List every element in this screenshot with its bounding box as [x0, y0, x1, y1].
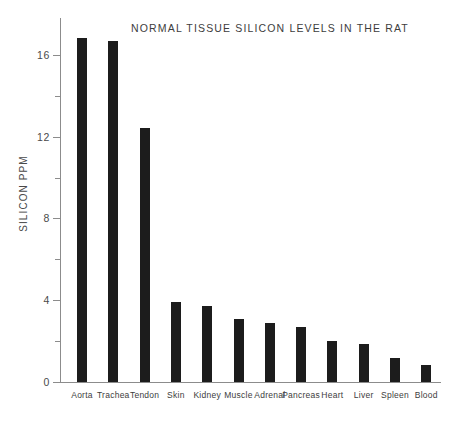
y-tick-minor [55, 341, 60, 342]
y-tick-label: 12 [37, 131, 50, 143]
bar [202, 306, 212, 382]
y-axis-label: SILICON PPM [18, 149, 29, 239]
bar [234, 319, 244, 382]
y-tick-label: 16 [37, 49, 50, 61]
x-axis-line [60, 382, 441, 383]
category-label: Heart [321, 390, 343, 400]
y-tick-major: 16 [53, 55, 60, 56]
category-label: Adrenal [254, 390, 285, 400]
category-label: Aorta [71, 390, 93, 400]
bar [359, 344, 369, 382]
category-label: Skin [167, 390, 185, 400]
chart-figure: NORMAL TISSUE SILICON LEVELS IN THE RAT … [0, 0, 451, 421]
bar [421, 365, 431, 382]
y-axis-line [60, 18, 61, 383]
category-label: Kidney [193, 390, 221, 400]
plot-area: 0481216 AortaTracheaTendonSkinKidneyMusc… [60, 18, 441, 383]
category-label: Spleen [381, 390, 409, 400]
category-label: Tendon [130, 390, 159, 400]
y-tick-major: 4 [53, 300, 60, 301]
bar [296, 327, 306, 382]
y-tick-label: 0 [44, 376, 50, 388]
category-label: Muscle [224, 390, 252, 400]
y-tick-major: 0 [53, 382, 60, 383]
y-tick-label: 4 [44, 294, 50, 306]
y-tick-minor [55, 178, 60, 179]
y-tick-label: 8 [44, 212, 50, 224]
y-tick-minor [55, 96, 60, 97]
bar [108, 41, 118, 383]
category-label: Liver [354, 390, 374, 400]
bar [171, 302, 181, 382]
y-tick-major: 8 [53, 218, 60, 219]
bar [140, 128, 150, 382]
bar [327, 341, 337, 382]
y-tick-major: 12 [53, 137, 60, 138]
y-tick-minor [55, 259, 60, 260]
category-label: Blood [415, 390, 438, 400]
bar [265, 323, 275, 382]
category-label: Pancreas [282, 390, 320, 400]
bar [390, 358, 400, 382]
category-label: Trachea [97, 390, 130, 400]
bar [77, 38, 87, 382]
